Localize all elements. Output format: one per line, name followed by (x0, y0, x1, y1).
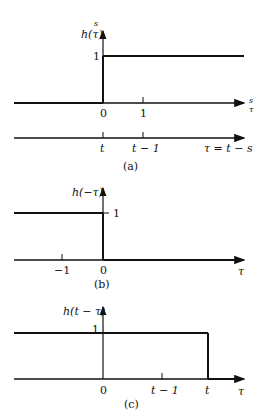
panel-b-ylabel: h(−τ) (72, 187, 103, 198)
panel-b (14, 188, 244, 260)
panel-c-axis-label-tau: τ (238, 386, 244, 397)
panel-a-xtick-0: 0 (100, 108, 107, 119)
panel-c-xtick-t: t (205, 385, 209, 396)
panel-a-xtick-1: 1 (140, 108, 147, 119)
panel-b-caption: (b) (94, 279, 110, 290)
panel-b-xtick-0: 0 (100, 265, 107, 276)
panel-a-second-tick-t-minus-1: t − 1 (132, 143, 160, 154)
panel-a (14, 31, 244, 138)
panel-c-caption: (c) (124, 399, 139, 410)
panel-c-ytick-1: 1 (92, 324, 99, 335)
panel-c-ylabel: h(t − τ) (63, 306, 105, 317)
panel-a-ylabel: h(τ) (81, 29, 103, 40)
panel-b-ytick-1: 1 (113, 208, 120, 219)
panel-b-axis-label-tau: τ (238, 266, 244, 277)
panel-c-xtick-t-minus-1: t − 1 (151, 385, 179, 396)
panel-a-ytick-1: 1 (93, 51, 100, 62)
panel-a-second-axis-label: τ = t − s (204, 143, 253, 154)
panel-a-axis-label-tau: τ (249, 106, 253, 114)
panel-c-xtick-0: 0 (100, 385, 107, 396)
panel-a-axis-label-s: s (249, 97, 253, 105)
panel-a-caption: (a) (123, 161, 138, 172)
panel-b-xtick-minus-1: −1 (54, 265, 70, 276)
diagram-canvas (0, 0, 264, 418)
panel-a-second-tick-t: t (100, 143, 104, 154)
panel-c (14, 307, 244, 379)
panel-a-ylabel-super: s (94, 20, 98, 28)
